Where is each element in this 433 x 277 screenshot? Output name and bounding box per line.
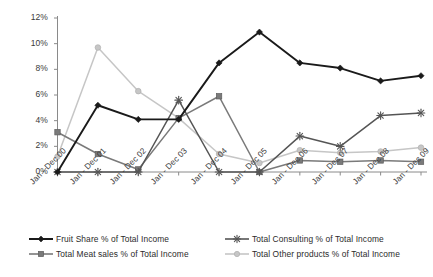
legend-item-label: Total Other products % of Total Income: [252, 249, 400, 259]
y-axis-tick-label: 4%: [14, 115, 48, 125]
y-axis-tick-label: 6%: [14, 89, 48, 99]
series-line: [55, 45, 424, 166]
chart-series: [54, 29, 425, 176]
legend-item-label: Total Meat sales % of Total Income: [56, 249, 189, 259]
y-axis-tick-label: 8%: [14, 63, 48, 73]
legend-marker-icon: [224, 248, 250, 260]
y-axis-tick-label: 12%: [14, 12, 48, 22]
legend-marker-icon: [224, 233, 250, 245]
chart-legend: Fruit Share % of Total IncomeTotal Consu…: [28, 232, 428, 266]
series-line: [54, 29, 424, 175]
legend-marker-icon: [28, 248, 54, 260]
legend-item-label: Total Consulting % of Total Income: [252, 234, 384, 244]
y-axis-tick-label: 10%: [14, 38, 48, 48]
legend-item: Total Other products % of Total Income: [224, 247, 400, 260]
chart-container: 0%2%4%6%8%10%12% Jan - Dec 00Jan - Dec 0…: [0, 0, 433, 277]
legend-marker-icon: [28, 233, 54, 245]
legend-item: Fruit Share % of Total Income: [28, 232, 169, 245]
legend-item-label: Fruit Share % of Total Income: [56, 234, 169, 244]
legend-item: Total Consulting % of Total Income: [224, 232, 384, 245]
legend-item: Total Meat sales % of Total Income: [28, 247, 189, 260]
y-axis-tick-label: 2%: [14, 140, 48, 150]
